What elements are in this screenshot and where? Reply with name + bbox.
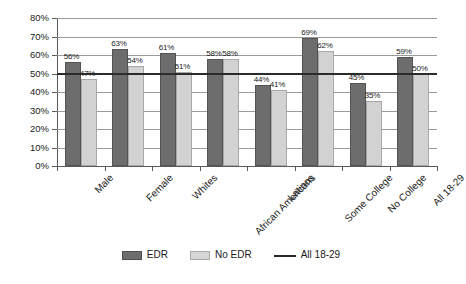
bar-value-label: 58% (206, 50, 221, 58)
y-axis-tick-label: 50% (8, 69, 49, 79)
legend-item: All 18-29 (274, 250, 340, 260)
y-axis-tick-label: 30% (8, 106, 49, 116)
bar-value-label: 50% (412, 65, 427, 73)
bar-edr (65, 62, 81, 166)
bar-value-label: 69% (301, 29, 316, 37)
x-tick-mark (105, 166, 106, 171)
bar-value-label: 63% (111, 40, 126, 48)
bar-group: 61%51% (152, 18, 200, 166)
x-tick-mark (247, 166, 248, 171)
bar-edr (350, 83, 366, 166)
bar-value-label: 35% (365, 92, 380, 100)
bar-group: 44%41% (247, 18, 295, 166)
chart-legend: EDRNo EDRAll 18-29 (0, 250, 462, 260)
y-axis-tick-label: 0% (8, 161, 49, 171)
x-tick-mark (295, 166, 296, 171)
x-axis-category-label: Some College (342, 172, 394, 224)
x-axis-category-label: All 18-29 (430, 172, 466, 208)
bar-edr (255, 85, 271, 166)
bar-no-edr (318, 51, 334, 166)
bar-value-label: 45% (349, 74, 364, 82)
bar-value-label: 58% (222, 50, 237, 58)
bar-value-label: 41% (270, 81, 285, 89)
legend-label: All 18-29 (301, 250, 340, 260)
bar-edr (207, 59, 223, 166)
bar-group: 69%62% (295, 18, 343, 166)
legend-swatch-icon (274, 251, 296, 260)
legend-swatch-icon (122, 251, 142, 260)
bar-value-label: 56% (64, 53, 79, 61)
x-axis-category-label: Whites (190, 172, 219, 201)
x-axis-category-label: Male (93, 172, 116, 195)
bar-group: 63%54% (105, 18, 153, 166)
bar-value-label: 51% (175, 63, 190, 71)
bar-group: 56%47% (57, 18, 105, 166)
bar-value-label: 62% (317, 42, 332, 50)
bar-no-edr (128, 66, 144, 166)
bar-value-label: 54% (127, 57, 142, 65)
bar-group: 58%58% (200, 18, 248, 166)
legend-item: No EDR (190, 250, 252, 260)
bar-value-label: 61% (159, 44, 174, 52)
bar-no-edr (413, 74, 429, 167)
legend-swatch-icon (190, 251, 210, 260)
bar-no-edr (81, 79, 97, 166)
legend-label: No EDR (215, 250, 252, 260)
x-tick-mark (437, 166, 438, 171)
plot-area: 56%47%63%54%61%51%58%58%44%41%69%62%45%3… (57, 18, 437, 166)
bar-group: 45%35% (342, 18, 390, 166)
legend-label: EDR (147, 250, 168, 260)
y-axis-tick-label: 40% (8, 87, 49, 97)
x-tick-mark (200, 166, 201, 171)
bar-edr (302, 38, 318, 166)
legend-item: EDR (122, 250, 168, 260)
x-tick-mark (152, 166, 153, 171)
bar-no-edr (176, 72, 192, 166)
bar-value-label: 59% (396, 48, 411, 56)
y-axis-tick-label: 60% (8, 50, 49, 60)
y-axis-tick-label: 20% (8, 124, 49, 134)
bar-no-edr (223, 59, 239, 166)
x-axis-category-label: Latinos (286, 172, 317, 203)
x-tick-mark (57, 166, 58, 171)
reference-line-all-18-29 (57, 73, 437, 75)
x-tick-mark (390, 166, 391, 171)
y-axis-tick-label: 10% (8, 143, 49, 153)
bar-no-edr (271, 90, 287, 166)
y-axis-tick-label: 80% (8, 13, 49, 23)
bar-edr (112, 49, 128, 166)
x-tick-mark (342, 166, 343, 171)
bar-group: 59%50% (390, 18, 438, 166)
bar-value-label: 44% (254, 76, 269, 84)
bar-edr (160, 53, 176, 166)
x-axis-category-label: Female (144, 172, 175, 203)
bar-no-edr (366, 101, 382, 166)
y-axis-tick-label: 70% (8, 32, 49, 42)
